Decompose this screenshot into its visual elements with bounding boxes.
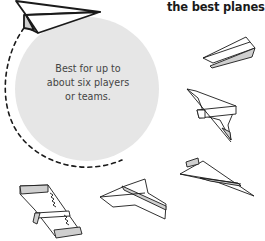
paper-plane-delta-bottom-center <box>100 179 166 219</box>
paper-plane-glider-right <box>203 37 255 68</box>
callout-line-3: or teams. <box>32 90 144 104</box>
illustration-canvas <box>0 0 265 241</box>
callout-text: Best for up to about six players or team… <box>32 62 144 104</box>
section-heading: the best planes and <box>167 0 265 14</box>
callout-line-1: Best for up to <box>32 62 144 76</box>
callout-line-2: about six players <box>32 76 144 90</box>
paper-plane-dart-lower-right <box>180 158 254 196</box>
paper-plane-jet-right <box>187 89 236 142</box>
paper-plane-flat-glider-bottom-left <box>20 185 82 238</box>
